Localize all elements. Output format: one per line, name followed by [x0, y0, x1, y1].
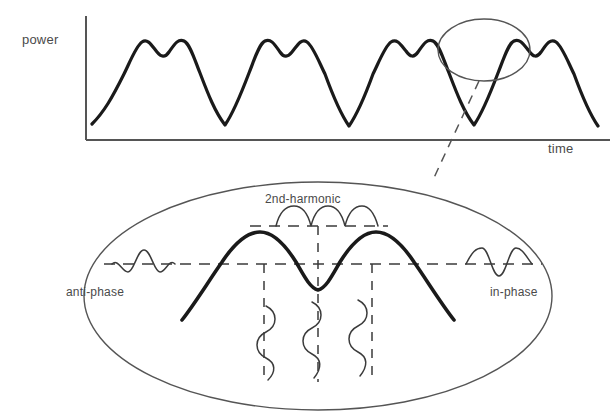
power-time-harmonic-figure [0, 0, 616, 418]
power-trace [92, 40, 598, 126]
highlight-circle [438, 19, 530, 81]
anti-phase-label: anti-phase [66, 285, 124, 299]
second-harmonic-wavelet [276, 206, 378, 226]
vertical-sinusoid-right [349, 300, 367, 376]
magnifier-panel [84, 182, 552, 410]
vertical-sinusoid-left [257, 306, 275, 380]
y-axis-label: power [22, 32, 58, 47]
in-phase-label: in-phase [490, 285, 538, 299]
in-phase-wavelet [466, 248, 532, 276]
second-harmonic-label: 2nd-harmonic [265, 192, 341, 206]
leader-line [432, 81, 479, 182]
anti-phase-wavelet [112, 250, 175, 272]
top-panel [86, 16, 610, 182]
x-axis-label: time [548, 141, 573, 156]
